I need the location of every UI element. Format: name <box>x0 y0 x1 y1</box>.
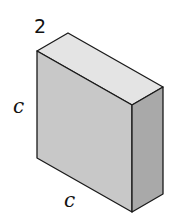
side-face <box>132 87 163 212</box>
width-label: c <box>64 190 75 210</box>
prism-diagram <box>0 0 169 224</box>
depth-label: 2 <box>34 17 46 36</box>
height-label: c <box>13 96 24 116</box>
